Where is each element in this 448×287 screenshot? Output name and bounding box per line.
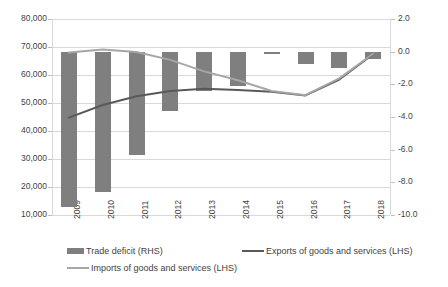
legend-line-swatch-icon-exports (242, 250, 264, 253)
legend-item-exports: Exports of goods and services (LHS) (242, 246, 413, 256)
line-imports (69, 50, 373, 96)
legend-bar-swatch-icon (67, 248, 84, 254)
line-exports (69, 54, 373, 117)
legend-line-swatch-icon-imports (67, 267, 89, 270)
line-series-layer (0, 0, 448, 287)
legend-label-imports: Imports of goods and services (LHS) (91, 263, 237, 273)
legend-item-imports: Imports of goods and services (LHS) (67, 263, 237, 273)
legend-label-trade-deficit: Trade deficit (RHS) (86, 246, 163, 256)
legend-label-exports: Exports of goods and services (LHS) (266, 246, 413, 256)
legend-item-trade-deficit: Trade deficit (RHS) (67, 246, 163, 256)
chart-container: 10,00020,00030,00040,00050,00060,00070,0… (0, 0, 448, 287)
